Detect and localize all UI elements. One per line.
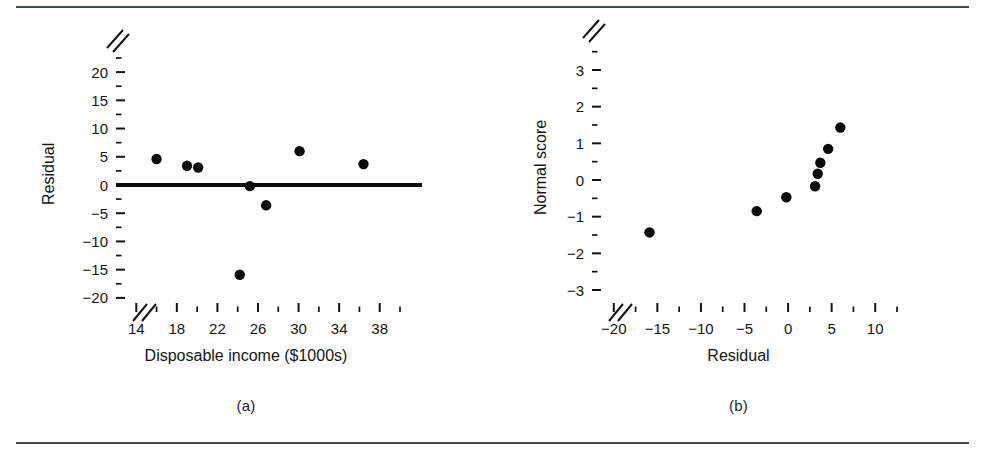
y-tick-label: −5 — [91, 205, 108, 222]
x-tick-label: −20 — [601, 320, 626, 337]
data-point — [752, 206, 762, 216]
x-tick-label: 22 — [209, 320, 226, 337]
y-tick-label: 10 — [91, 120, 108, 137]
x-tick-label: 38 — [371, 320, 388, 337]
x-tick-label: −15 — [645, 320, 670, 337]
y-tick-label: 0 — [576, 172, 584, 189]
x-tick-label: 34 — [331, 320, 348, 337]
y-tick-label: 20 — [91, 64, 108, 81]
normal-probability-plot-residual: 3210−1−2−3−20−15−10−50510 — [492, 0, 985, 400]
x-tick-label: −5 — [736, 320, 753, 337]
y-tick-label: 2 — [576, 98, 584, 115]
data-point — [358, 159, 368, 169]
data-point-group — [151, 146, 368, 280]
panel-a-x-axis-title: Disposable income ($1000s) — [0, 347, 492, 365]
data-point — [644, 227, 654, 237]
data-point — [294, 146, 304, 156]
panel-b-y-axis-title: Normal score — [532, 120, 550, 215]
data-point — [815, 158, 825, 168]
data-point-group — [644, 122, 845, 237]
data-point — [182, 161, 192, 171]
panel-b-x-axis-title: Residual — [492, 347, 985, 365]
y-tick-label: −10 — [83, 233, 108, 250]
data-point — [235, 270, 245, 280]
panel-a-y-axis-title: Residual — [40, 143, 58, 205]
y-tick-label: 1 — [576, 135, 584, 152]
data-point — [781, 192, 791, 202]
panel-a: 20151050−5−10−15−2014182226303438 Residu… — [0, 0, 492, 459]
x-tick-label: 18 — [169, 320, 186, 337]
data-point — [813, 169, 823, 179]
x-tick-label: 5 — [827, 320, 835, 337]
panel-b: 3210−1−2−3−20−15−10−50510 Normal score R… — [492, 0, 985, 459]
y-tick-label: −3 — [567, 282, 584, 299]
y-tick-label: 0 — [100, 177, 108, 194]
scatter-plot-residual-vs-income: 20151050−5−10−15−2014182226303438 — [0, 0, 492, 400]
x-axis-break-icon — [609, 304, 632, 321]
y-tick-label: 5 — [100, 148, 108, 165]
y-tick-label: −20 — [83, 289, 108, 306]
data-point — [823, 144, 833, 154]
panel-b-caption: (b) — [492, 397, 985, 414]
data-point — [245, 181, 255, 191]
x-tick-label: −10 — [688, 320, 713, 337]
y-tick-label: −1 — [567, 208, 584, 225]
x-tick-label: 30 — [290, 320, 307, 337]
x-tick-label: 10 — [867, 320, 884, 337]
y-tick-label: 3 — [576, 62, 584, 79]
data-point — [193, 162, 203, 172]
x-tick-label: 14 — [128, 320, 145, 337]
data-point — [835, 122, 845, 132]
y-tick-label: −15 — [83, 261, 108, 278]
data-point — [810, 181, 820, 191]
data-point — [151, 154, 161, 164]
y-axis-break-icon — [107, 30, 129, 52]
x-tick-label: 26 — [250, 320, 267, 337]
data-point — [261, 200, 271, 210]
y-tick-label: 15 — [91, 92, 108, 109]
figure-frame: 20151050−5−10−15−2014182226303438 Residu… — [0, 0, 985, 459]
x-tick-label: 0 — [784, 320, 792, 337]
panel-a-caption: (a) — [0, 397, 492, 414]
y-tick-label: −2 — [567, 245, 584, 262]
y-axis-break-icon — [583, 20, 605, 42]
